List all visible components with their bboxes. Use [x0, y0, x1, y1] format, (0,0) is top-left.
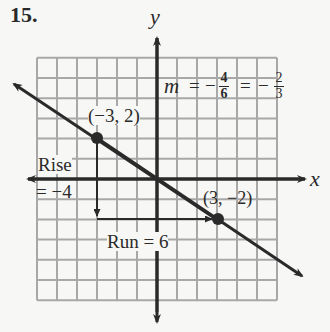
numerator: 2: [276, 71, 283, 86]
point-neg3-2: [91, 132, 103, 144]
point-label-3-neg2: (3, −2): [203, 189, 252, 207]
x-axis-label: x: [310, 168, 320, 190]
fraction-2-3: 2 3: [274, 71, 284, 102]
fraction-4-6: 4 6: [219, 71, 229, 102]
point-3-neg2: [212, 213, 224, 225]
slope-neg2: −: [258, 76, 269, 95]
denominator: 3: [276, 87, 283, 102]
run-label: Run = 6: [107, 232, 168, 251]
numerator: 4: [221, 71, 228, 86]
rise-value: = −4: [36, 182, 72, 201]
slope-neg1: −: [205, 76, 216, 95]
slope-m: m: [164, 76, 179, 97]
rise-label: Rise: [38, 155, 72, 174]
y-axis-label: y: [150, 6, 160, 28]
denominator: 6: [221, 87, 228, 102]
slope-eq1: =: [189, 76, 200, 95]
slope-eq2: =: [240, 76, 251, 95]
point-label-neg3-2: (−3, 2): [88, 106, 140, 125]
